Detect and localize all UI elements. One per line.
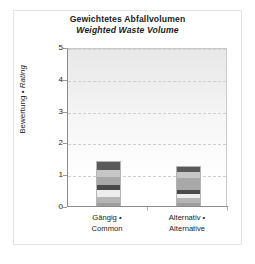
y-tick-label-1: 1 [49, 170, 63, 179]
y-tick-label-2: 2 [49, 138, 63, 147]
y-tick-mark-4 [63, 80, 67, 81]
y-axis-label-en: Rating [18, 65, 27, 88]
y-tick-label-4: 4 [49, 75, 63, 84]
gridline-y-4 [68, 81, 226, 82]
x-axis-label-2: Alternativ •Alternative [139, 212, 235, 234]
gridline-y-2 [68, 144, 226, 145]
bar-1-segment-6 [96, 170, 121, 177]
x-tick-mark-1 [147, 207, 148, 211]
y-tick-label-5: 5 [49, 43, 63, 52]
x-axis-label-2-en: Alternative [139, 223, 235, 234]
y-tick-mark-2 [63, 143, 67, 144]
bar-2-segment-5 [176, 178, 201, 189]
y-tick-mark-5 [63, 48, 67, 49]
y-axis-label: Bewertung • Rating [18, 45, 27, 155]
bar-1[interactable] [96, 161, 121, 207]
bar-2[interactable] [176, 166, 201, 207]
plot-background [68, 49, 226, 207]
y-tick-mark-0 [63, 207, 67, 208]
y-tick-label-0: 0 [49, 202, 63, 211]
x-tick-mark-2 [227, 207, 228, 211]
chart-figure: Gewichtetes Abfallvolumen Weighted Waste… [0, 0, 255, 264]
y-tick-mark-1 [63, 175, 67, 176]
gridline-y-1 [68, 176, 226, 177]
x-axis-label-2-de: Alternativ • [139, 212, 235, 223]
gridline-y-5 [68, 49, 226, 50]
gridline-y-3 [68, 113, 226, 114]
y-axis-label-de: Bewertung [18, 96, 27, 134]
y-axis-label-separator: • [18, 91, 27, 94]
bar-1-segment-5 [96, 177, 121, 186]
plot-area [67, 48, 227, 207]
bar-1-segment-7 [96, 161, 121, 170]
y-tick-mark-3 [63, 112, 67, 113]
y-tick-label-3: 3 [49, 107, 63, 116]
